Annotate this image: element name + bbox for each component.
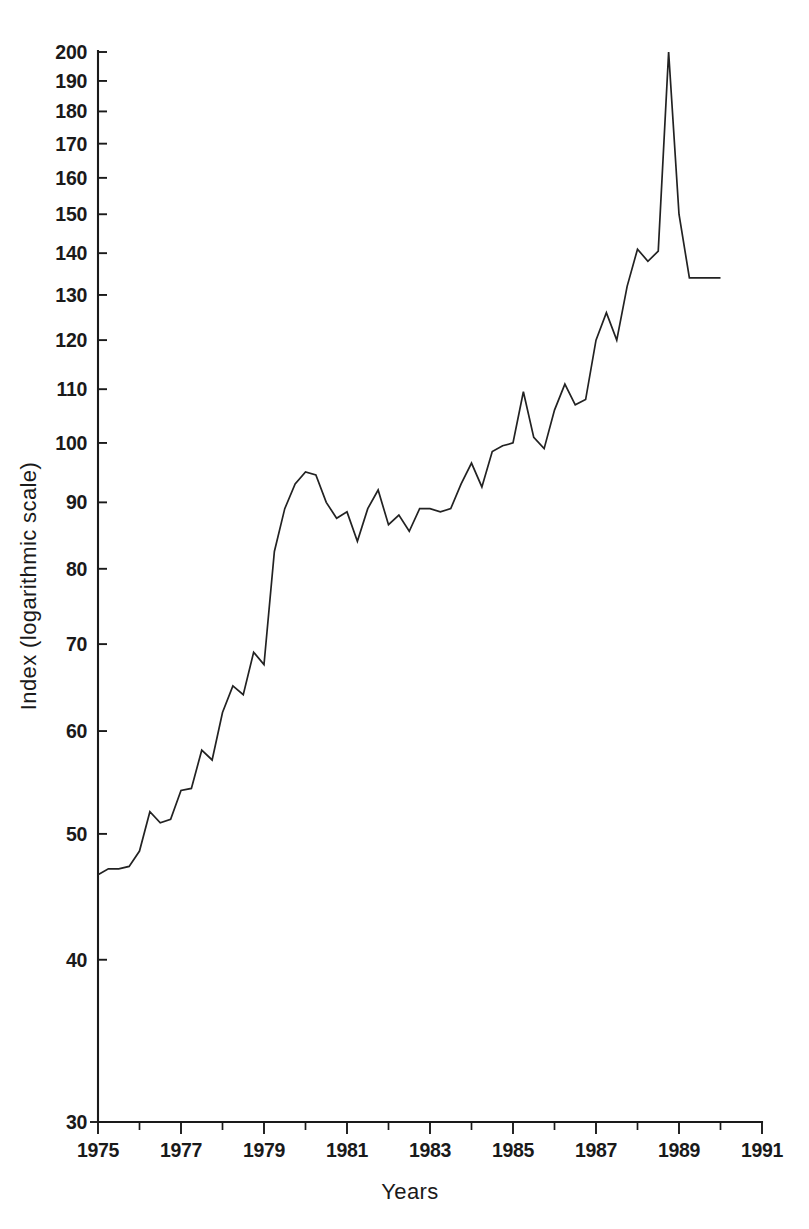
x-tick-label: 1987 bbox=[575, 1139, 617, 1161]
y-tick-label: 190 bbox=[55, 70, 87, 92]
series-polyline bbox=[98, 52, 721, 875]
y-tick-label: 80 bbox=[66, 558, 88, 580]
y-tick-label: 70 bbox=[66, 633, 88, 655]
x-tick-label: 1989 bbox=[658, 1139, 701, 1161]
y-tick-label: 140 bbox=[55, 242, 87, 264]
y-tick-label: 40 bbox=[66, 949, 88, 971]
y-tick-label: 160 bbox=[55, 167, 87, 189]
x-axis-ticks bbox=[98, 1122, 762, 1134]
y-tick-label: 170 bbox=[55, 133, 87, 155]
x-tick-label: 1979 bbox=[243, 1139, 286, 1161]
y-tick-label: 90 bbox=[66, 491, 88, 513]
y-tick-label: 120 bbox=[55, 329, 87, 351]
x-tick-label: 1977 bbox=[160, 1139, 202, 1161]
y-axis-tick-labels: 2001901801701601501401301201101009080706… bbox=[55, 41, 87, 1133]
y-tick-label: 60 bbox=[66, 720, 88, 742]
y-tick-label: 100 bbox=[55, 432, 87, 454]
x-tick-label: 1985 bbox=[492, 1139, 535, 1161]
x-tick-label: 1991 bbox=[741, 1139, 784, 1161]
y-tick-label: 30 bbox=[66, 1111, 88, 1133]
chart-axes bbox=[98, 51, 762, 1122]
x-axis-title: Years bbox=[381, 1179, 438, 1204]
data-series-line bbox=[98, 52, 721, 875]
x-tick-label: 1983 bbox=[409, 1139, 452, 1161]
y-tick-label: 50 bbox=[66, 823, 88, 845]
line-chart: 2001901801701601501401301201101009080706… bbox=[0, 0, 809, 1229]
y-tick-label: 150 bbox=[55, 203, 87, 225]
y-tick-label: 110 bbox=[56, 378, 87, 400]
x-tick-label: 1975 bbox=[77, 1139, 120, 1161]
y-axis-title: Index (logarithmic scale) bbox=[16, 462, 41, 710]
y-tick-label: 200 bbox=[55, 41, 87, 63]
y-tick-label: 130 bbox=[55, 284, 87, 306]
chart-container: 2001901801701601501401301201101009080706… bbox=[0, 0, 809, 1229]
y-tick-label: 180 bbox=[55, 100, 87, 122]
x-tick-label: 1981 bbox=[326, 1139, 369, 1161]
x-axis-tick-labels: 197519771979198119831985198719891991 bbox=[77, 1139, 784, 1161]
